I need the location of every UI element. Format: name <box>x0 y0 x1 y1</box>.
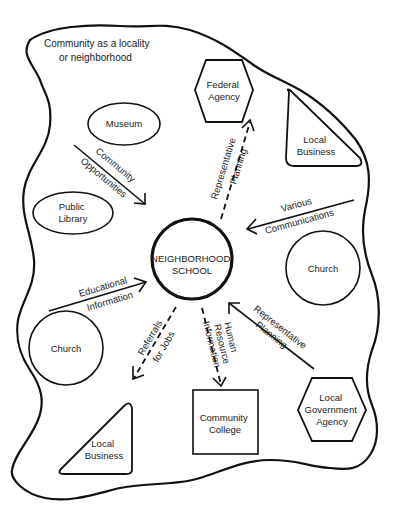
svg-text:NEIGHBORHOOD SCHOOL: NEIGHBORHOOD SCHOOL <box>151 253 233 276</box>
node-neighborhood-school: NEIGHBORHOOD SCHOOL <box>151 219 233 299</box>
edge-educational-information: Educational Information <box>49 274 146 313</box>
svg-text:Church: Church <box>308 263 339 274</box>
edge-community-opportunities: Community Opportunities <box>74 145 145 204</box>
svg-text:Museum: Museum <box>106 118 143 129</box>
svg-text:Public Library: Public Library <box>58 201 87 224</box>
node-local-business-top: Local Business <box>286 89 361 166</box>
edge-referrals-for-jobs: Referrals for Jobs <box>133 307 177 379</box>
node-church-right: Church <box>286 231 360 305</box>
edge-representative-planning-federal: Representative Planning <box>208 120 254 219</box>
node-federal-agency: Federal Agency <box>195 60 253 122</box>
node-local-business-bottom: Local Business <box>59 403 132 474</box>
svg-text:Local Business: Local Business <box>85 438 124 461</box>
node-public-library: Public Library <box>33 192 113 234</box>
svg-text:Church: Church <box>51 343 82 354</box>
edge-various-communications: Various Communications <box>247 195 354 236</box>
node-museum: Museum <box>88 103 160 145</box>
node-church-left: Church <box>29 311 103 385</box>
node-local-government-agency: Local Government Agency <box>298 378 366 441</box>
svg-text:Various: Various <box>280 195 314 214</box>
node-community-college: Community College <box>193 390 258 454</box>
diagram-title: Community as a locality or neighborhood <box>44 38 152 63</box>
svg-text:Federal Agency: Federal Agency <box>207 79 242 102</box>
svg-text:Community College: Community College <box>200 412 251 435</box>
svg-text:Local Business: Local Business <box>297 134 336 157</box>
community-school-diagram: Community as a locality or neighborhood … <box>0 0 394 520</box>
edge-human-resource-information: Human Resource Information <box>201 308 240 386</box>
edge-representative-planning-local-gov: Representative Planning <box>229 303 314 369</box>
svg-text:Local Government A: Local Government Agency <box>305 392 360 427</box>
